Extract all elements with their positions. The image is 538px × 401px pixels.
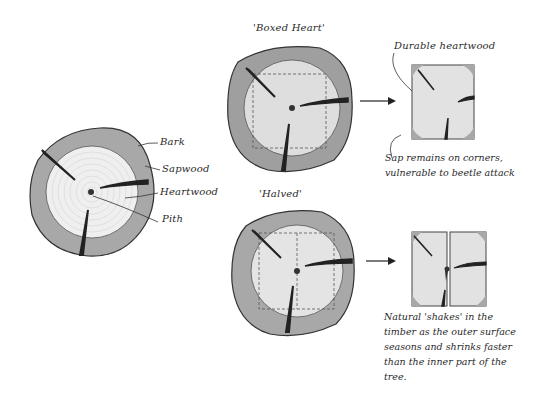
boxed-heart-result [390,53,474,158]
arrow-boxed [360,97,396,105]
label-pith: Pith [162,213,183,224]
note-sap-corners: Sap remains on corners, vulnerable to be… [385,150,515,180]
label-heartwood: Heartwood [160,186,218,197]
note-natural-shakes: Natural 'shakes' in the timber as the ou… [384,309,516,384]
main-log [30,128,160,256]
pith-dot [88,189,94,195]
label-sapwood: Sapwood [162,163,210,174]
label-durable-heartwood: Durable heartwood [394,40,495,51]
title-boxed-heart: 'Boxed Heart' [253,22,325,33]
arrow-halved [366,257,396,265]
label-bark: Bark [160,136,185,147]
boxed-heart-log [228,47,352,172]
title-halved: 'Halved' [259,188,302,199]
halved-log [232,211,354,336]
halved-result [412,232,486,306]
